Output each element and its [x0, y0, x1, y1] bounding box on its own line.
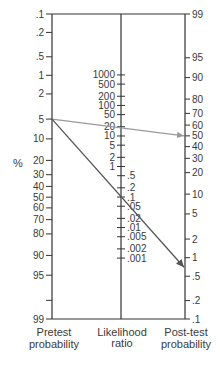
pretest-tick-label: 40: [33, 181, 45, 192]
posttest-tick-label: 30: [192, 153, 204, 164]
posttest-tick-label: 40: [192, 141, 204, 152]
fagan-nomogram: .1.2.51251020304050607080909599 10005002…: [0, 0, 220, 365]
posttest-tick-label: 50: [192, 130, 204, 141]
pretest-axis-title-line2: probability: [29, 338, 80, 350]
posttest-tick-label: 20: [192, 167, 204, 178]
pretest-tick-label: 5: [38, 114, 44, 125]
posttest-tick-label: 60: [192, 120, 204, 131]
posttest-tick-label: 80: [192, 94, 204, 105]
pretest-tick-label: 30: [33, 169, 45, 180]
likelihood-ratio-tick-label: .001: [127, 253, 147, 264]
posttest-tick-label: 90: [192, 72, 204, 83]
pretest-tick-label: .2: [36, 27, 45, 38]
likelihood-ratio-tick-label: .005: [127, 231, 147, 242]
posttest-tick-label: 2: [192, 234, 198, 245]
dark-arrow-line: [52, 119, 184, 267]
posttest-tick-label: .1: [192, 314, 201, 325]
posttest-axis-title-line1: Post-test: [164, 326, 207, 338]
pretest-tick-label: 20: [33, 155, 45, 166]
posttest-tick-label: 70: [192, 108, 204, 119]
pretest-tick-label: 10: [33, 133, 45, 144]
likelihood-ratio-tick-label: 1: [109, 161, 115, 172]
posttest-tick-label: 95: [192, 52, 204, 63]
pretest-tick-label: 60: [33, 202, 45, 213]
pretest-axis-title-line1: Pretest: [37, 326, 72, 338]
posttest-tick-label: .2: [192, 295, 201, 306]
likelihood-ratio-tick-label: 500: [98, 79, 115, 90]
pretest-axis-ticks: .1.2.51251020304050607080909599: [33, 9, 52, 325]
posttest-tick-label: 1: [192, 252, 198, 263]
posttest-tick-label: 10: [192, 189, 204, 200]
pretest-tick-label: 2: [38, 88, 44, 99]
pretest-tick-label: 50: [33, 192, 45, 203]
posttest-axis-ticks: 9995908070605040302010521.5.2.1: [185, 9, 204, 325]
pretest-tick-label: .1: [36, 9, 45, 20]
pretest-tick-label: 80: [33, 228, 45, 239]
arrow-series: [52, 119, 184, 267]
pretest-tick-label: 70: [33, 214, 45, 225]
posttest-tick-label: 99: [192, 9, 204, 20]
posttest-tick-label: .5: [192, 271, 201, 282]
percent-axis-label: %: [13, 157, 23, 169]
pretest-tick-label: 99: [33, 314, 45, 325]
likelihood-ratio-tick-label: .5: [127, 170, 136, 181]
pretest-tick-label: 95: [33, 270, 45, 281]
pretest-tick-label: .5: [36, 51, 45, 62]
likelihood-ratio-tick-label: 5: [109, 140, 115, 151]
posttest-axis-title-line2: probability: [161, 338, 212, 350]
likelihood-ratio-tick-label: 50: [104, 109, 116, 120]
gray-arrow-line: [52, 119, 184, 136]
pretest-tick-label: 1: [38, 70, 44, 81]
pretest-tick-label: 90: [33, 250, 45, 261]
posttest-tick-label: 5: [192, 208, 198, 219]
likelihood-ratio-axis-ticks: 1000500200100502010521.5.2.1.05.02.01.00…: [93, 69, 147, 263]
likelihood-ratio-axis-title-line2: ratio: [111, 337, 132, 349]
